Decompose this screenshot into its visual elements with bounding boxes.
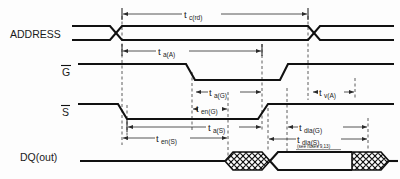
signal-label-s-text: S <box>62 106 69 118</box>
signal-label-dq-text: DQ(out) <box>20 151 57 163</box>
dimension-label-ten-g: t <box>196 103 199 114</box>
dimension-sub-ten-s: en(S) <box>161 138 177 146</box>
signal-label-dq: DQ(out) <box>20 151 57 163</box>
dimension-sub-tc-rd: c(rd) <box>189 14 202 22</box>
dimension-sub-ta-a: a(A) <box>163 51 175 59</box>
dimension-sub-tv-a: v(A) <box>324 92 336 100</box>
signal-label-address-text: ADDRESS <box>10 28 61 40</box>
dimension-label-ta-g: t <box>209 87 212 98</box>
dimension-sub-tdia-g: dia(G) <box>304 127 322 135</box>
timing-diagram-svg: ADDRESS G S DQ(out) t c(rd) <box>0 0 400 179</box>
dimension-label-tv-a: t <box>319 87 322 98</box>
signal-label-address: ADDRESS <box>10 28 61 40</box>
note-text: (see notes 9,13) <box>297 144 331 149</box>
dimension-label-tdia-s: t <box>297 134 300 145</box>
dq-transition-hatch-right <box>352 152 389 170</box>
dimension-sub-ta-g: a(G) <box>214 92 227 100</box>
dimension-label-ten-s: t <box>156 133 159 144</box>
dimension-label-ta-a: t <box>158 46 161 57</box>
signal-label-g: G <box>61 66 71 79</box>
dq-transition-hatch-left <box>225 152 270 170</box>
timing-diagram-figure: ADDRESS G S DQ(out) t c(rd) <box>0 0 400 179</box>
dimension-label-tc-rd: t <box>184 9 187 20</box>
dimension-sub-ten-g: en(G) <box>201 108 218 116</box>
dimension-label-ta-s: t <box>208 122 211 133</box>
dimension-label-tdia-g: t <box>299 122 302 133</box>
dimension-sub-ta-s: a(S) <box>213 127 225 135</box>
signal-label-g-text: G <box>62 66 70 78</box>
signal-label-s: S <box>61 106 70 119</box>
